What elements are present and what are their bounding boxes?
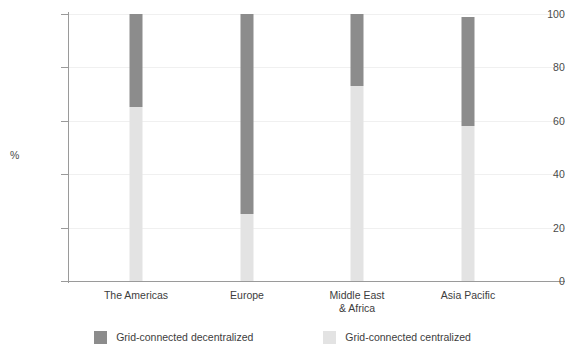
legend-item-decentralized[interactable]: Grid-connected decentralized <box>94 331 253 344</box>
bar-middle-east-africa[interactable] <box>351 14 364 281</box>
y-tick-label-20: 20 <box>511 222 565 234</box>
gridline-100 <box>68 14 565 15</box>
x-tick-label-asia-pacific: Asia Pacific <box>398 289 538 302</box>
legend-label-centralized: Grid-connected centralized <box>345 331 470 344</box>
bar-segment-europe-centralized <box>241 214 254 281</box>
y-tick-mark-60 <box>61 121 68 122</box>
bar-segment-middle-east-africa-centralized <box>351 86 364 281</box>
y-tick-label-80: 80 <box>511 61 565 73</box>
bar-segment-the-americas-decentralized <box>130 14 143 107</box>
bar-segment-asia-pacific-decentralized <box>462 17 475 126</box>
y-tick-label-100: 100 <box>511 8 565 20</box>
y-tick-label-60: 60 <box>511 115 565 127</box>
gridline-40 <box>68 174 565 175</box>
legend-swatch-decentralized <box>94 331 107 344</box>
y-tick-mark-100 <box>61 14 68 15</box>
x-axis-line <box>68 281 565 282</box>
y-tick-label-40: 40 <box>511 168 565 180</box>
y-tick-mark-0 <box>61 281 68 282</box>
gridline-80 <box>68 67 565 68</box>
bar-the-americas[interactable] <box>130 14 143 281</box>
bar-europe[interactable] <box>241 14 254 281</box>
gridline-60 <box>68 121 565 122</box>
y-tick-mark-20 <box>61 228 68 229</box>
bar-segment-asia-pacific-centralized <box>462 126 475 281</box>
y-tick-mark-80 <box>61 67 68 68</box>
gridline-20 <box>68 228 565 229</box>
y-tick-mark-40 <box>61 174 68 175</box>
bar-segment-middle-east-africa-decentralized <box>351 14 364 86</box>
legend-swatch-centralized <box>323 331 336 344</box>
chart-legend: Grid-connected decentralized Grid-connec… <box>0 331 565 344</box>
plot-area <box>68 14 565 281</box>
stacked-bar-chart: 100 80 60 40 20 0 % The Americas Europe … <box>0 0 565 363</box>
y-tick-label-0: 0 <box>511 275 565 287</box>
y-axis-title: % <box>10 149 19 161</box>
bar-asia-pacific[interactable] <box>462 14 475 281</box>
y-axis-line <box>68 12 69 283</box>
bar-segment-europe-decentralized <box>241 14 254 214</box>
legend-label-decentralized: Grid-connected decentralized <box>116 331 253 344</box>
legend-item-centralized[interactable]: Grid-connected centralized <box>323 331 470 344</box>
bar-segment-the-americas-centralized <box>130 107 143 281</box>
